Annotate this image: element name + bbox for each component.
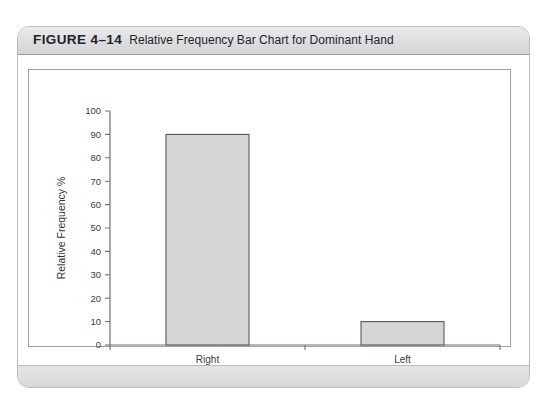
chart-root: 0102030405060708090100Relative Frequency…	[55, 105, 500, 367]
y-axis-tick-label: 80	[90, 152, 101, 163]
y-axis-tick-label: 100	[85, 105, 101, 116]
y-axis-tick-label: 50	[90, 222, 101, 233]
y-axis-tick-label: 40	[90, 246, 101, 257]
y-axis-tick-label: 60	[90, 199, 101, 210]
figure-caption: Relative Frequency Bar Chart for Dominan…	[129, 33, 393, 47]
figure-header-band: FIGURE 4–14Relative Frequency Bar Chart …	[18, 27, 529, 55]
y-axis-tick-label: 90	[90, 129, 101, 140]
y-axis-tick-label: 20	[90, 293, 101, 304]
figure-header-text: FIGURE 4–14Relative Frequency Bar Chart …	[33, 32, 394, 47]
bar-chart: 0102030405060708090100Relative Frequency…	[18, 55, 530, 367]
figure-number: FIGURE 4–14	[33, 32, 122, 47]
y-axis-tick-label: 0	[96, 339, 101, 350]
bar-left	[361, 322, 444, 345]
y-axis-tick-label: 70	[90, 176, 101, 187]
x-axis-category-label: Right	[196, 354, 220, 365]
y-axis-tick-label: 30	[90, 269, 101, 280]
x-axis-category-label: Left	[394, 354, 411, 365]
y-axis-title: Relative Frequency %	[55, 177, 67, 280]
figure-footer-band	[18, 365, 529, 387]
y-axis-tick-label: 10	[90, 316, 101, 327]
bar-right	[166, 134, 249, 345]
figure-card: FIGURE 4–14Relative Frequency Bar Chart …	[17, 26, 530, 388]
